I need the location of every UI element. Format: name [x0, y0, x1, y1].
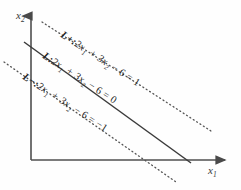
figure-canvas — [0, 0, 241, 190]
svm-margin-figure: x2 x1 L+:2x1 + 3x2 − 6 = 1 L:2x1 + 3x2 −… — [0, 0, 241, 190]
y-axis-label: x2 — [16, 9, 25, 24]
x-axis-label: x1 — [208, 164, 217, 179]
